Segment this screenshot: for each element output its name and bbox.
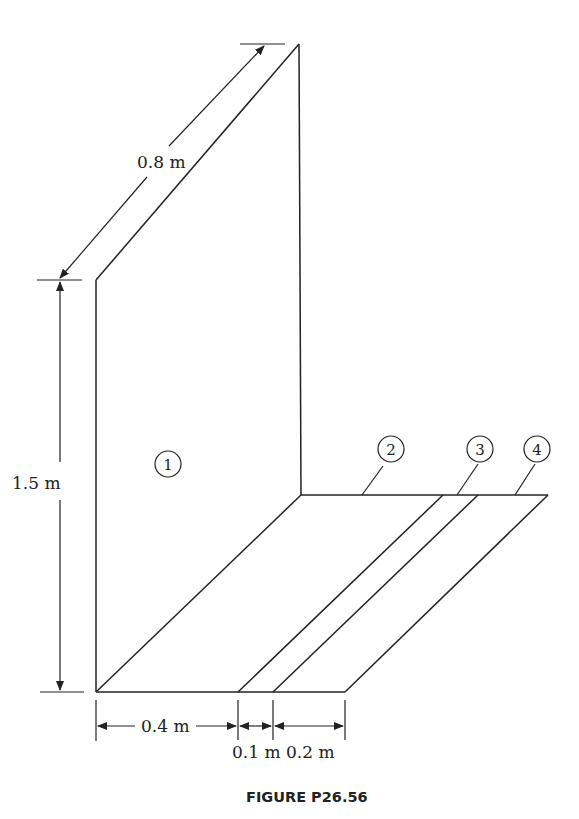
width-dimensions: 0.4 m 0.1 m 0.2 m <box>96 700 345 762</box>
depth-arrow-down <box>60 177 147 278</box>
floor-division-2-3 <box>238 495 443 692</box>
figure-caption: FIGURE P26.56 <box>246 789 368 805</box>
surface-4-label: 4 <box>532 441 542 459</box>
geometry-diagram: 0.8 m 1.5 m 0.4 m 0.1 m 0.2 m 1 2 3 <box>0 0 579 819</box>
height-label: 1.5 m <box>12 473 61 493</box>
plate-top-edge <box>96 44 299 280</box>
surface-2-leader <box>362 466 383 495</box>
floor-left-seam <box>96 495 301 692</box>
width2-label: 0.1 m <box>232 742 281 762</box>
surface-1-marker: 1 <box>155 451 181 477</box>
plate-back-edge <box>299 44 301 495</box>
depth-label: 0.8 m <box>137 152 186 172</box>
surface-2-marker: 2 <box>362 436 404 495</box>
surface-1-label: 1 <box>163 456 173 474</box>
floor-plate <box>96 495 548 692</box>
surface-2-label: 2 <box>386 441 396 459</box>
surface-4-marker: 4 <box>515 436 550 495</box>
width3-label: 0.2 m <box>286 742 335 762</box>
depth-dimension: 0.8 m <box>37 44 285 280</box>
height-dimension: 1.5 m <box>12 282 84 692</box>
surface-3-label: 3 <box>475 441 485 459</box>
surface-4-leader <box>515 464 535 495</box>
surface-3-marker: 3 <box>457 436 493 495</box>
vertical-plate <box>96 44 301 692</box>
depth-arrow-up <box>169 46 264 146</box>
width1-label: 0.4 m <box>141 716 190 736</box>
surface-3-leader <box>457 464 478 495</box>
